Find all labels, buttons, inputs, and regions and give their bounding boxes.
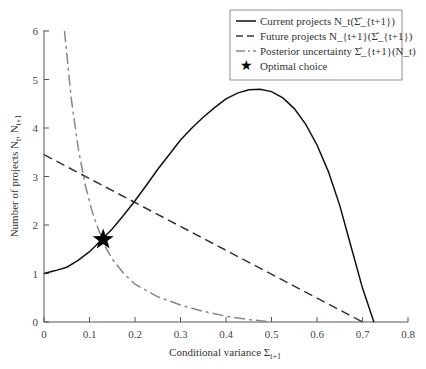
y-axis-label: Number of projects Nt, Nt+1 xyxy=(8,115,23,238)
star-icon: ★ xyxy=(240,58,253,73)
y-tick-label: 2 xyxy=(33,219,39,231)
x-axis-label: Conditional variance Σt+1 xyxy=(169,346,281,361)
y-tick-label: 6 xyxy=(33,25,39,37)
legend-item-current-projects: Current projects N_t(Σ̂_{t+1}) xyxy=(260,15,395,28)
y-tick-label: 4 xyxy=(33,122,39,134)
y-ticks: 0123456 xyxy=(33,25,50,328)
x-tick-label: 0.8 xyxy=(401,328,415,340)
y-tick-label: 1 xyxy=(33,268,39,280)
series-line xyxy=(44,155,363,322)
x-tick-label: 0.6 xyxy=(310,328,324,340)
x-tick-label: 0.4 xyxy=(219,328,233,340)
y-tick-label: 0 xyxy=(33,316,39,328)
x-tick-label: 0.7 xyxy=(356,328,370,340)
chart: 00.10.20.30.40.50.60.70.8 0123456 ★ Curr… xyxy=(0,0,426,369)
x-tick-label: 0.2 xyxy=(128,328,142,340)
x-tick-label: 0.5 xyxy=(265,328,279,340)
legend-item-future-projects: Future projects N_{t+1}(Σ̂_{t+1}) xyxy=(260,30,413,43)
y-tick-label: 5 xyxy=(33,74,39,86)
x-tick-label: 0 xyxy=(41,328,47,340)
legend-item-optimal-choice: Optimal choice xyxy=(260,60,328,72)
y-tick-label: 3 xyxy=(33,171,39,183)
x-tick-label: 0.1 xyxy=(83,328,97,340)
series-line xyxy=(44,89,374,322)
x-tick-label: 0.3 xyxy=(174,328,188,340)
legend-item-posterior-uncertainty: Posterior uncertainty Σ̂_{t+1}(N_t) xyxy=(260,45,416,58)
legend: ★ Current projects N_t(Σ̂_{t+1}) Future … xyxy=(230,10,416,80)
